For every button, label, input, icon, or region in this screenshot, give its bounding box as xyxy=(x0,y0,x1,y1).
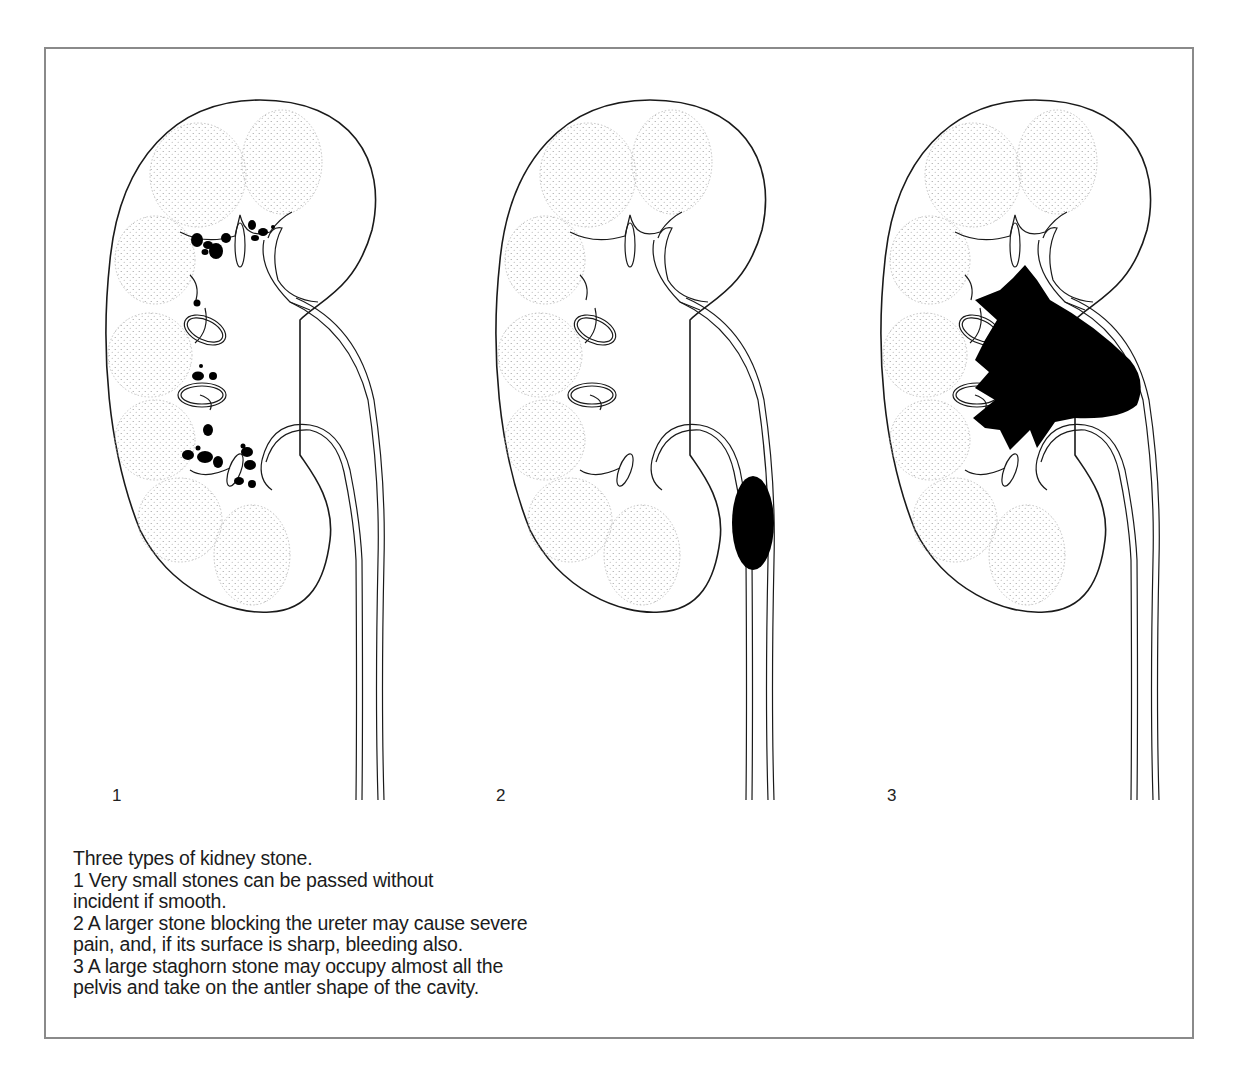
caption-line: incident if smooth. xyxy=(73,891,673,913)
caption-title: Three types of kidney stone. xyxy=(73,848,673,870)
panel-label-1: 1 xyxy=(112,786,121,806)
caption-line: 3 A large staghorn stone may occupy almo… xyxy=(73,956,673,978)
caption-line: 2 A larger stone blocking the ureter may… xyxy=(73,913,673,935)
figure-caption: Three types of kidney stone. 1 Very smal… xyxy=(73,848,673,999)
caption-line: pain, and, if its surface is sharp, blee… xyxy=(73,934,673,956)
kidney-panel-1 xyxy=(106,100,384,800)
caption-line: pelvis and take on the antler shape of t… xyxy=(73,977,673,999)
ureter-stone xyxy=(732,476,774,570)
panel-label-2: 2 xyxy=(496,786,505,806)
kidney-panel-3 xyxy=(881,100,1159,800)
small-stones xyxy=(182,220,275,488)
caption-line: 1 Very small stones can be passed withou… xyxy=(73,870,673,892)
kidney-panel-2 xyxy=(496,100,774,800)
panel-label-3: 3 xyxy=(887,786,896,806)
